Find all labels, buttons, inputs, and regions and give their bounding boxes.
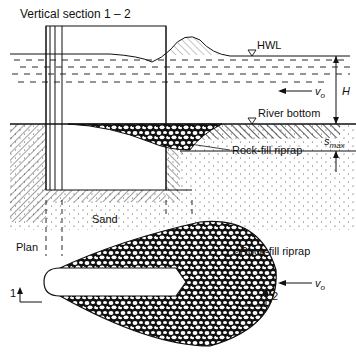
pier-scour-diagram (0, 0, 356, 353)
riprap-plan-label: Rock-fill riprap (240, 246, 310, 257)
flow-arrow-icon (278, 88, 286, 94)
river-bottom-triangle-icon (248, 118, 256, 124)
river-bottom-label: River bottom (258, 108, 320, 119)
plan-flow-arrow-icon (278, 280, 286, 286)
sand-label: Sand (92, 214, 118, 225)
section-title: Vertical section 1 – 2 (20, 8, 131, 20)
hwl-triangle-icon (248, 50, 256, 56)
hwl-label: HWL (257, 40, 281, 51)
plan-velocity-label: vo (315, 278, 325, 292)
velocity-label: vo (315, 86, 325, 100)
section-mark-1-arrow-icon (17, 287, 23, 294)
depth-label: H (342, 86, 350, 97)
pier-plan (44, 268, 186, 296)
plan-title: Plan (16, 242, 38, 253)
section-mark-1: 1 (10, 288, 16, 299)
riprap-section-label: Rock-fill riprap (232, 145, 302, 156)
scour-depth-label: smax (324, 136, 345, 150)
section-mark-2: 2 (272, 291, 278, 302)
